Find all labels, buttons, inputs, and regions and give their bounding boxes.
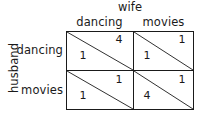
payoff-column-r0c1: 1	[175, 34, 189, 46]
payoff-row-r0c0: 1	[76, 50, 90, 62]
payoff-matrix-figure: wife dancing movies husband dancing movi…	[0, 0, 201, 115]
payoff-row-r1c0: 1	[76, 90, 90, 102]
payoff-column-r1c1: 1	[175, 74, 189, 86]
payoff-row-r0c1: 1	[140, 50, 154, 62]
payoff-row-r1c1: 4	[140, 90, 154, 102]
payoff-column-r1c0: 1	[112, 74, 126, 86]
matrix-grid	[0, 0, 201, 115]
payoff-column-r0c0: 4	[112, 34, 126, 46]
